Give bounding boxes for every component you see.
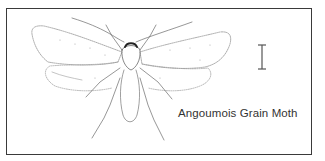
scale-bar — [257, 44, 267, 70]
figure-caption: Angoumois Grain Moth — [178, 107, 298, 119]
moth-illustration — [0, 0, 325, 161]
